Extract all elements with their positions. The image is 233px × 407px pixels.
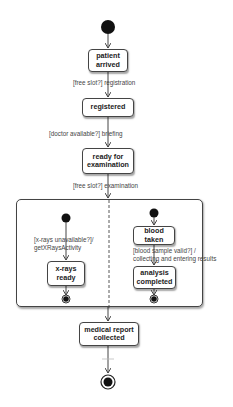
state-label: medical report collected xyxy=(82,326,136,343)
transition-xrays-label-2: getXRaysActivity xyxy=(34,244,81,252)
state-analysis-completed: analysis completed xyxy=(133,266,176,289)
state-registered: registered xyxy=(82,98,134,117)
composite-state-examination: [x-rays unavailable?]/ getXRaysActivity … xyxy=(16,199,203,307)
state-ready-for-examination: ready for examination xyxy=(82,148,134,174)
initial-node-icon xyxy=(101,20,115,34)
initial-node-icon xyxy=(150,209,159,218)
state-patient-arrived: patient arrived xyxy=(88,49,128,72)
transition-registration-label: [free slot?] registration xyxy=(73,79,135,87)
transition-xrays-label-1: [x-rays unavailable?]/ xyxy=(34,236,94,244)
initial-node-icon xyxy=(62,214,71,223)
state-xrays-ready: x-rays ready xyxy=(47,261,85,286)
transition-examination-label: [free slot?] examination xyxy=(73,182,138,190)
transition-blood-label-1: [blood sample valid?] / xyxy=(133,247,196,255)
state-medical-report-collected: medical report collected xyxy=(79,322,139,346)
transition-blood-label-2: collecting and entering results xyxy=(133,255,216,263)
state-label: x-rays ready xyxy=(50,265,82,282)
state-label: analysis completed xyxy=(136,269,173,286)
state-label: patient arrived xyxy=(91,52,125,69)
transition-briefing-label: [doctor available?] briefing xyxy=(49,130,123,138)
state-blood-taken: blood taken xyxy=(133,226,175,245)
state-label: blood taken xyxy=(136,227,172,244)
state-label: ready for examination xyxy=(85,153,131,170)
state-label: registered xyxy=(91,103,126,112)
